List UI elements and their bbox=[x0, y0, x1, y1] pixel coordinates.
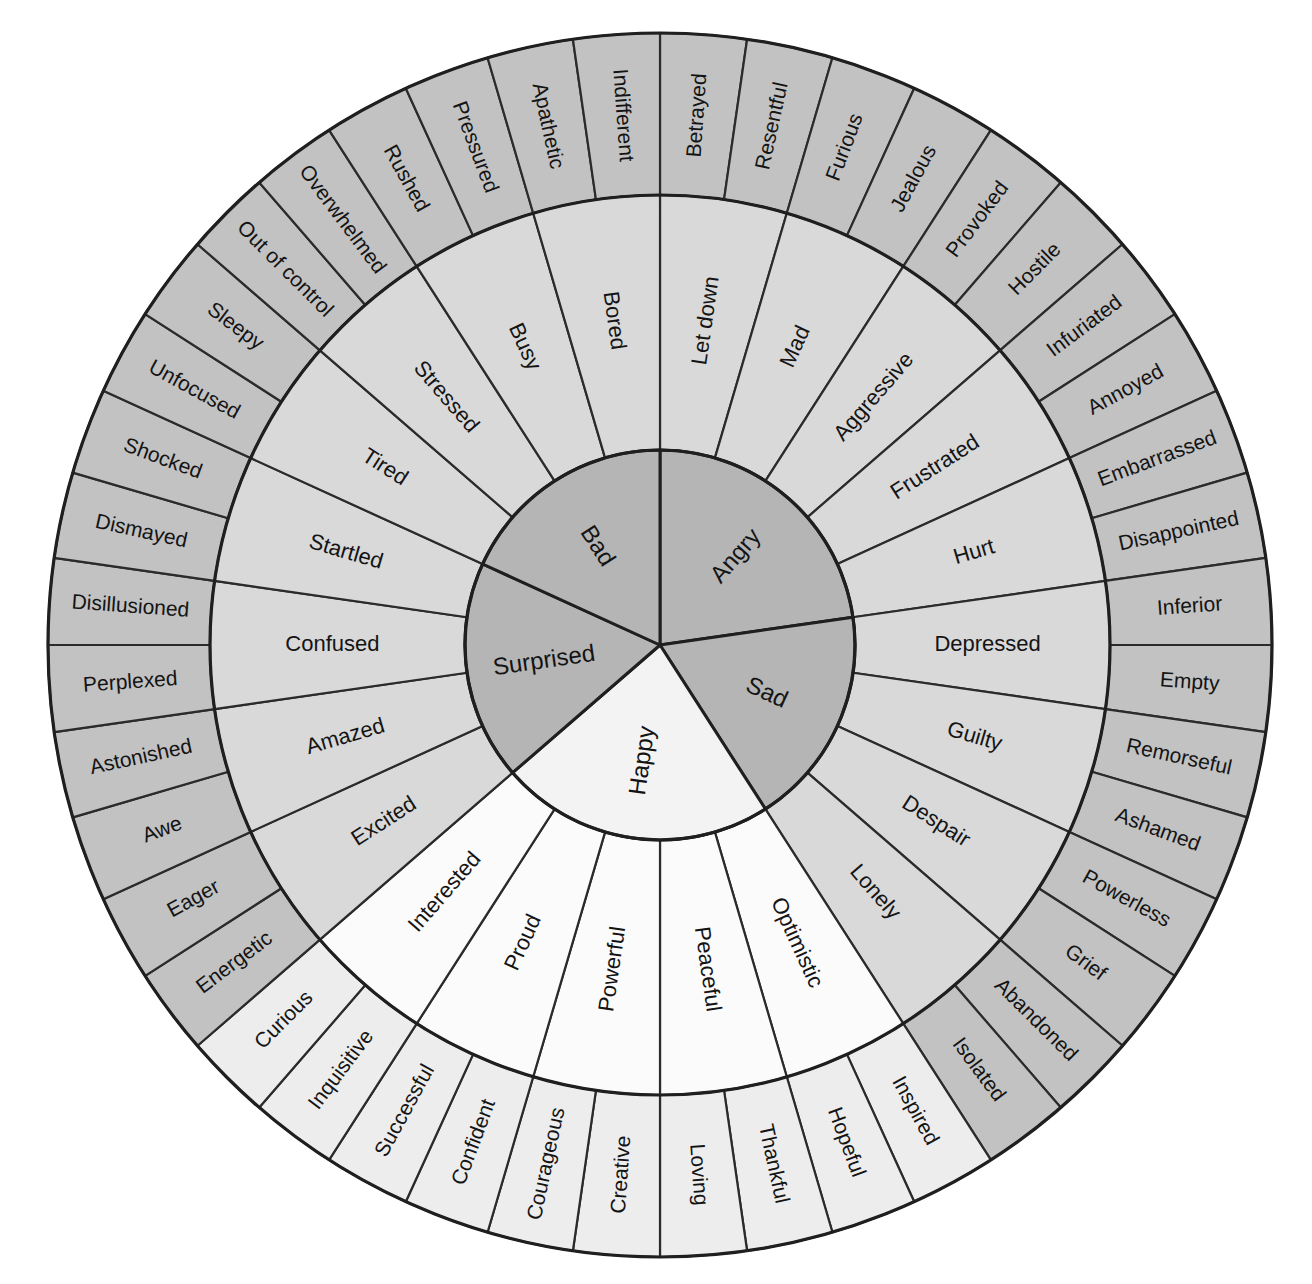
outer-label-inferior: Inferior bbox=[1156, 591, 1223, 619]
middle-label-depressed: Depressed bbox=[934, 631, 1040, 656]
emotion-wheel-diagram: AngryLet downBetrayedResentfulMadFurious… bbox=[0, 0, 1312, 1284]
emotion-wheel-svg: AngryLet downBetrayedResentfulMadFurious… bbox=[0, 0, 1312, 1284]
outer-label-loving: Loving bbox=[686, 1143, 713, 1206]
outer-label-empty: Empty bbox=[1159, 667, 1221, 694]
core-ring-group bbox=[465, 450, 855, 840]
middle-label-confused: Confused bbox=[285, 631, 379, 656]
